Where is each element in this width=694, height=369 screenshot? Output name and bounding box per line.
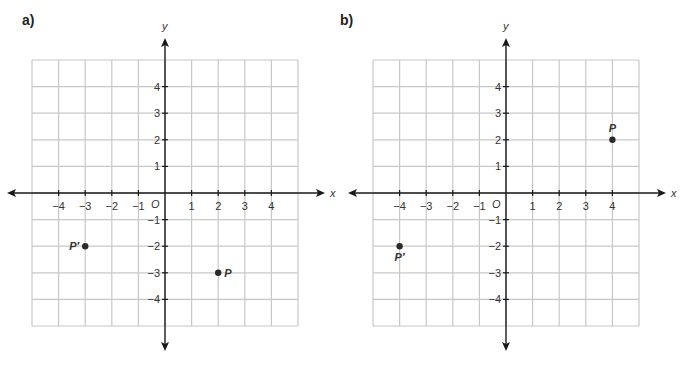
x-tick-label: −3 xyxy=(79,200,92,212)
y-tick-label: 4 xyxy=(495,81,501,93)
origin-label: O xyxy=(151,198,160,210)
y-tick-label: −4 xyxy=(488,293,501,305)
x-tick-label: 2 xyxy=(215,200,221,212)
axes xyxy=(348,38,666,351)
x-tick-label: −1 xyxy=(473,200,486,212)
svg-text:P: P xyxy=(609,122,617,134)
x-tick-label: −2 xyxy=(106,200,119,212)
x-tick-label: 1 xyxy=(530,200,536,212)
x-tick-label: 4 xyxy=(609,200,615,212)
y-tick-label: 3 xyxy=(154,107,160,119)
panel-a: a) xyO−4−3−2−112344321−1−2−3−4PP′ xyxy=(0,0,347,369)
x-tick-label: 1 xyxy=(189,200,195,212)
y-tick-label: −3 xyxy=(488,267,501,279)
y-tick-label: 2 xyxy=(154,134,160,146)
panel-b: b) xyO−4−3−2−112344321−1−2−3−4PP′ xyxy=(347,0,694,369)
y-tick-label: 1 xyxy=(495,160,501,172)
point-p: P xyxy=(609,122,617,143)
y-axis-label: y xyxy=(161,20,169,32)
y-tick-label: −2 xyxy=(488,240,501,252)
y-tick-label: −2 xyxy=(147,240,160,252)
origin-label: O xyxy=(492,198,501,210)
y-tick-label: −3 xyxy=(147,267,160,279)
y-tick-label: 4 xyxy=(154,81,160,93)
axes xyxy=(7,38,325,351)
y-tick-label: 1 xyxy=(154,160,160,172)
y-tick-label: −1 xyxy=(488,214,501,226)
x-tick-label: −4 xyxy=(52,200,65,212)
x-tick-label: −1 xyxy=(132,200,145,212)
y-tick-label: −4 xyxy=(147,293,160,305)
y-axis-label: y xyxy=(502,20,510,32)
coordinate-plane-a: xyO−4−3−2−112344321−1−2−3−4PP′ xyxy=(0,0,347,369)
x-tick-label: 4 xyxy=(268,200,274,212)
svg-text:P′: P′ xyxy=(69,240,80,252)
y-tick-label: 3 xyxy=(495,107,501,119)
x-tick-label: 3 xyxy=(583,200,589,212)
y-tick-label: 2 xyxy=(495,134,501,146)
x-axis-label: x xyxy=(329,187,336,199)
x-tick-label: −2 xyxy=(447,200,460,212)
x-tick-label: 3 xyxy=(242,200,248,212)
svg-text:P: P xyxy=(224,267,232,279)
x-axis-label: x xyxy=(670,187,677,199)
coordinate-plane-b: xyO−4−3−2−112344321−1−2−3−4PP′ xyxy=(347,0,694,369)
x-tick-label: 2 xyxy=(556,200,562,212)
x-tick-label: −4 xyxy=(393,200,406,212)
svg-text:P′: P′ xyxy=(395,251,406,263)
point-p: P xyxy=(215,267,232,279)
y-tick-label: −1 xyxy=(147,214,160,226)
x-tick-label: −3 xyxy=(420,200,433,212)
